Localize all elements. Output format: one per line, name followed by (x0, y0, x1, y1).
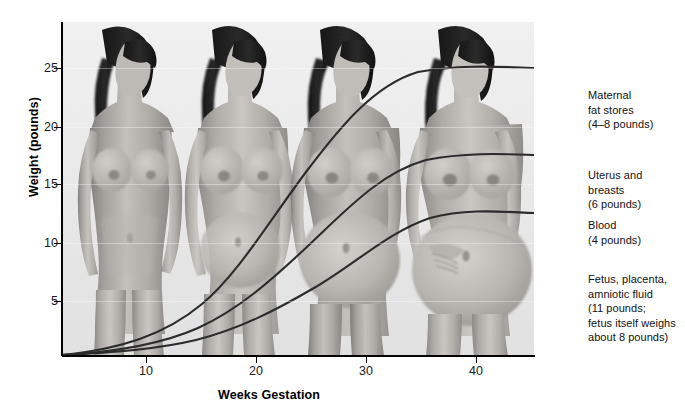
annotation-line: fetus itself weighs (588, 316, 685, 331)
plot-area (62, 22, 534, 356)
annotation-uterus-and-breasts: Uterus and breasts (6 pounds) (588, 168, 685, 212)
x-tick-mark-30 (366, 356, 367, 363)
annotation-line: fat stores (588, 103, 685, 118)
annotation-line: (4 pounds) (588, 233, 685, 248)
annotation-line: (6 pounds) (588, 197, 685, 212)
annotation-line: Maternal (588, 88, 685, 103)
x-tick-mark-20 (256, 356, 257, 363)
annotation-line: (4–8 pounds) (588, 117, 685, 132)
x-axis-line (62, 355, 535, 357)
four-figures-photo-strip (62, 22, 534, 356)
x-tick-label-10: 10 (126, 364, 166, 378)
pregnancy-weight-gain-figure: 25 20 15 10 5 10 20 30 40 Weight (pounds… (0, 0, 685, 417)
x-tick-label-20: 20 (236, 364, 276, 378)
y-axis-title: Weight (pounds) (27, 77, 41, 217)
y-axis-line (61, 22, 63, 356)
y-tick-label-10: 10 (24, 237, 58, 250)
annotation-line: Blood (588, 218, 685, 233)
annotation-line: (11 pounds; (588, 301, 685, 316)
x-axis-title: Weeks Gestation (62, 388, 476, 402)
y-tick-label-5: 5 (24, 295, 58, 308)
y-tick-label-25: 25 (24, 62, 58, 75)
x-tick-mark-10 (146, 356, 147, 363)
x-tick-mark-40 (476, 356, 477, 363)
annotation-blood: Blood (4 pounds) (588, 218, 685, 247)
annotation-line: about 8 pounds) (588, 330, 685, 345)
x-tick-label-30: 30 (346, 364, 386, 378)
annotation-line: Uterus and (588, 168, 685, 183)
annotation-line: amniotic fluid (588, 287, 685, 302)
annotation-line: breasts (588, 183, 685, 198)
annotation-fetus-placenta-amniotic-fluid: Fetus, placenta, amniotic fluid (11 poun… (588, 272, 685, 345)
x-tick-label-40: 40 (456, 364, 496, 378)
annotation-line: Fetus, placenta, (588, 272, 685, 287)
annotation-maternal-fat-stores: Maternal fat stores (4–8 pounds) (588, 88, 685, 132)
